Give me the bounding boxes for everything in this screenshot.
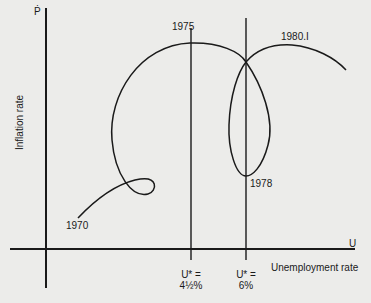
natural-rate-label-line1: U* = bbox=[231, 269, 261, 280]
natural-rate-label-value: 4½% bbox=[176, 280, 206, 291]
y-axis-symbol: Ṗ bbox=[34, 6, 41, 17]
natural-rate-label-4-5: U* = 4½% bbox=[176, 269, 206, 291]
natural-rate-label-line1: U* = bbox=[176, 269, 206, 280]
label-1975: 1975 bbox=[172, 21, 194, 32]
label-1970: 1970 bbox=[66, 220, 88, 231]
y-axis-label: Inflation rate bbox=[14, 95, 25, 150]
natural-rate-label-6: U* = 6% bbox=[231, 269, 261, 291]
inflation-unemployment-trajectory bbox=[78, 43, 346, 218]
label-1980-1: 1980.I bbox=[281, 31, 309, 42]
x-axis-label: Unemployment rate bbox=[271, 262, 358, 273]
x-axis-symbol: U bbox=[349, 238, 356, 249]
label-1978: 1978 bbox=[250, 178, 272, 189]
phillips-curve-diagram bbox=[0, 0, 371, 303]
natural-rate-label-value: 6% bbox=[231, 280, 261, 291]
